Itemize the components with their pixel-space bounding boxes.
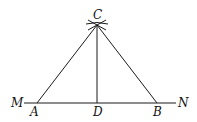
- label-c: C: [93, 8, 102, 22]
- label-d: D: [92, 105, 103, 119]
- label-m: M: [10, 96, 24, 110]
- geometry-diagram: C M N A D B: [0, 0, 197, 122]
- label-a: A: [29, 105, 39, 119]
- label-n: N: [177, 96, 189, 110]
- segment-bc: [97, 25, 157, 103]
- label-b: B: [152, 105, 162, 119]
- segment-ac: [37, 25, 97, 103]
